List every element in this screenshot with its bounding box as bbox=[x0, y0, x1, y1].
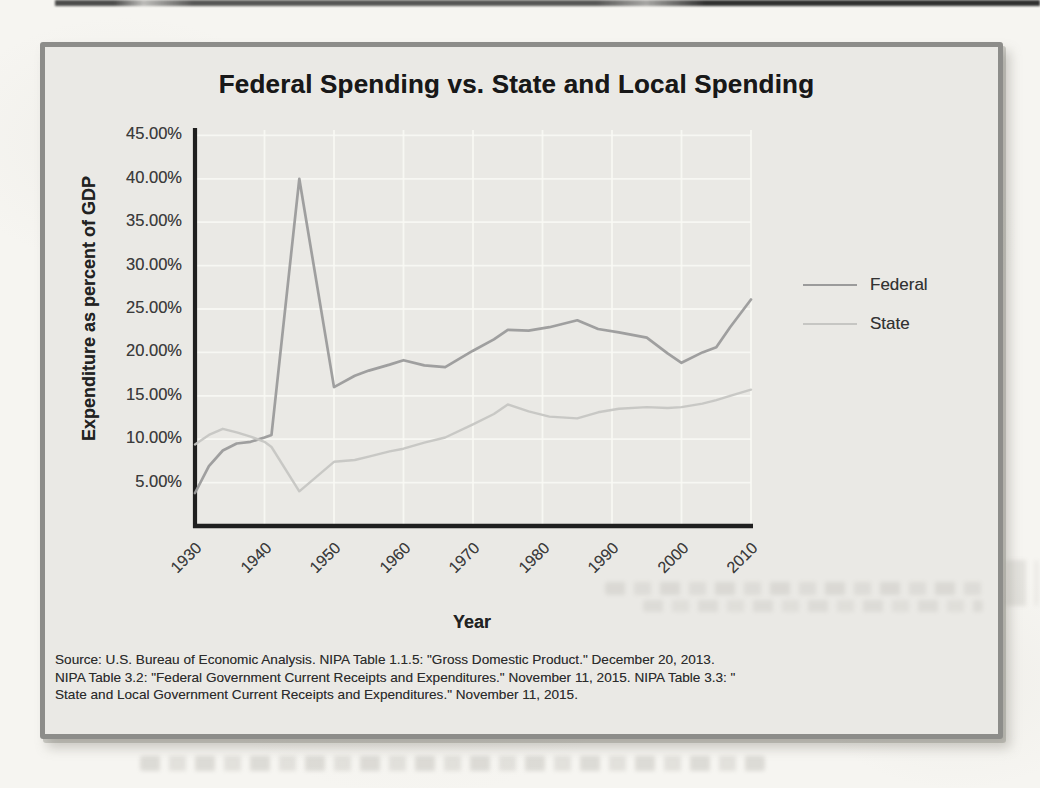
y-tick-label: 35.00% bbox=[90, 211, 182, 233]
scan-artifact-ghost-text-mid-1 bbox=[605, 582, 990, 595]
x-tick-label: 1950 bbox=[307, 539, 345, 577]
y-tick-label: 30.00% bbox=[90, 255, 182, 277]
plot-svg bbox=[191, 128, 753, 530]
page: { "colors": { "page_bg": "#f6f5f1", "fra… bbox=[0, 0, 1040, 788]
x-axis-title: Year bbox=[191, 612, 753, 633]
x-tick-label: 2010 bbox=[724, 539, 762, 577]
legend-item-federal: Federal bbox=[803, 274, 928, 296]
scan-artifact-ghost-text-bottom bbox=[140, 756, 765, 771]
source-note: Source: U.S. Bureau of Economic Analysis… bbox=[55, 651, 980, 704]
y-tick-label: 25.00% bbox=[90, 298, 182, 320]
y-tick-label: 5.00% bbox=[90, 472, 182, 494]
source-line-3: State and Local Government Current Recei… bbox=[55, 686, 980, 704]
state-line-swatch bbox=[803, 323, 857, 325]
y-axis-title: Expenditure as percent of GDP bbox=[79, 149, 100, 469]
legend: FederalState bbox=[803, 274, 928, 352]
y-tick-label: 10.00% bbox=[90, 428, 182, 450]
legend-label: Federal bbox=[870, 275, 928, 295]
source-line-1: Source: U.S. Bureau of Economic Analysis… bbox=[55, 651, 980, 669]
y-tick-label: 20.00% bbox=[90, 341, 182, 363]
x-tick-label: 1990 bbox=[585, 539, 623, 577]
x-tick-label: 2000 bbox=[654, 539, 692, 577]
x-tick-label: 1940 bbox=[237, 539, 275, 577]
legend-label: State bbox=[870, 314, 910, 334]
y-tick-label: 40.00% bbox=[90, 168, 182, 190]
scan-artifact-ghost-text-mid-2 bbox=[643, 600, 983, 612]
legend-item-state: State bbox=[803, 313, 928, 335]
chart-title: Federal Spending vs. State and Local Spe… bbox=[45, 69, 988, 100]
y-tick-label: 45.00% bbox=[90, 124, 182, 146]
figure-inner: Federal Spending vs. State and Local Spe… bbox=[45, 47, 988, 724]
x-tick-label: 1970 bbox=[446, 539, 484, 577]
x-tick-label: 1980 bbox=[515, 539, 553, 577]
federal-line-swatch bbox=[803, 284, 857, 286]
x-tick-label: 1930 bbox=[168, 539, 206, 577]
figure-frame: Federal Spending vs. State and Local Spe… bbox=[40, 42, 1003, 739]
y-tick-label: 15.00% bbox=[90, 385, 182, 407]
source-line-2: NIPA Table 3.2: "Federal Government Curr… bbox=[55, 669, 980, 687]
scan-artifact-top-band bbox=[55, 0, 1040, 6]
scan-artifact-ghost-text-right bbox=[1006, 560, 1038, 606]
x-tick-label: 1960 bbox=[376, 539, 414, 577]
